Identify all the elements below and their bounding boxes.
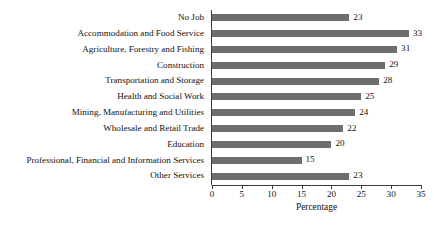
x-tick-mark (302, 185, 303, 189)
bar-row: 23 (212, 168, 421, 184)
x-axis-ticks: 05101520253035 (212, 185, 421, 199)
bar-row: 23 (212, 10, 421, 26)
bar-value-label: 22 (347, 121, 356, 137)
bar-row: 29 (212, 58, 421, 74)
category-label: Mining, Manufacturing and Utilities (0, 105, 208, 121)
x-tick-mark (391, 185, 392, 189)
bar-value-label: 23 (353, 10, 362, 26)
x-tick-mark (242, 185, 243, 189)
category-label: Accommodation and Food Service (0, 26, 208, 42)
bar (212, 157, 302, 164)
category-label: Construction (0, 58, 208, 74)
x-tick-label: 0 (210, 189, 215, 199)
x-tick-mark (212, 185, 213, 189)
category-label: Health and Social Work (0, 89, 208, 105)
x-tick-mark (421, 185, 422, 189)
bar-series: 2333312928252422201523 (212, 10, 421, 184)
bar-row: 31 (212, 42, 421, 58)
bar (212, 78, 379, 85)
bar (212, 93, 361, 100)
bar-row: 25 (212, 89, 421, 105)
bar (212, 30, 409, 37)
bar (212, 62, 385, 69)
x-tick-mark (361, 185, 362, 189)
bar (212, 14, 349, 21)
bar-row: 33 (212, 26, 421, 42)
category-label: Wholesale and Retail Trade (0, 121, 208, 137)
bar-value-label: 24 (359, 105, 368, 121)
x-tick-label: 5 (240, 189, 245, 199)
x-tick-label: 25 (357, 189, 366, 199)
bar (212, 173, 349, 180)
category-label: No Job (0, 10, 208, 26)
x-tick-label: 35 (416, 189, 425, 199)
bar-value-label: 28 (383, 73, 392, 89)
category-axis-labels: No Job Accommodation and Food Service Ag… (0, 10, 208, 184)
bar-chart: No Job Accommodation and Food Service Ag… (0, 0, 434, 225)
bar (212, 46, 397, 53)
category-label: Other Services (0, 168, 208, 184)
x-axis-title: Percentage (212, 202, 421, 212)
bar (212, 125, 343, 132)
bar-value-label: 29 (389, 57, 398, 73)
x-tick-label: 20 (327, 189, 336, 199)
x-tick-label: 10 (267, 189, 276, 199)
bar-value-label: 20 (335, 136, 344, 152)
bar-row: 24 (212, 105, 421, 121)
bar-value-label: 25 (365, 89, 374, 105)
x-tick-mark (331, 185, 332, 189)
x-tick-mark (272, 185, 273, 189)
bar-value-label: 31 (401, 41, 410, 57)
bar-row: 28 (212, 73, 421, 89)
bar-row: 20 (212, 137, 421, 153)
plot-area: 2333312928252422201523 (212, 10, 421, 184)
bar-value-label: 15 (306, 152, 315, 168)
category-label: Professional, Financial and Information … (0, 153, 208, 169)
bar-row: 15 (212, 153, 421, 169)
category-label: Education (0, 137, 208, 153)
bar (212, 141, 331, 148)
bar (212, 109, 355, 116)
category-label: Agriculture, Forestry and Fishing (0, 42, 208, 58)
bar-value-label: 33 (413, 26, 422, 42)
x-tick-label: 30 (387, 189, 396, 199)
category-label: Transportation and Storage (0, 73, 208, 89)
bar-value-label: 23 (353, 168, 362, 184)
bar-row: 22 (212, 121, 421, 137)
x-tick-label: 15 (297, 189, 306, 199)
